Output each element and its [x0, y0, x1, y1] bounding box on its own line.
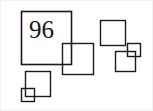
center-overlap-square — [63, 44, 94, 75]
squares-canvas — [0, 0, 153, 111]
lower-left-medium-square — [26, 72, 51, 97]
upper-right-square — [101, 21, 126, 46]
lower-left-small-square — [22, 89, 35, 102]
figure-root: 96 — [0, 0, 153, 111]
square-value-label: 96 — [29, 17, 54, 42]
right-small-square — [128, 44, 141, 57]
right-medium-square — [116, 52, 136, 72]
